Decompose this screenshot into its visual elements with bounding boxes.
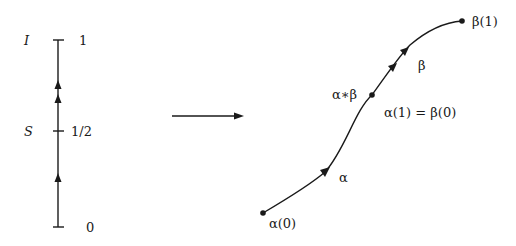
junction-label: α(1) = β(0) xyxy=(384,105,456,120)
arrow-up-icon xyxy=(55,94,62,103)
composite-path: α(0) β(1) α β α∗β α(1) = β(0) xyxy=(260,14,498,231)
arrow-up-icon xyxy=(55,80,62,89)
end-label: β(1) xyxy=(472,14,498,29)
end-point xyxy=(459,18,465,24)
start-point xyxy=(260,210,266,216)
beta-label: β xyxy=(418,58,426,73)
alpha-label: α xyxy=(339,170,348,185)
arrow-up-icon xyxy=(55,173,62,182)
tick-label-top: 1 xyxy=(79,33,87,48)
midpoint-name: S xyxy=(24,124,33,139)
unit-interval: I S 1 1/2 0 xyxy=(23,33,94,235)
composite-label: α∗β xyxy=(332,87,357,102)
junction-point xyxy=(369,92,375,98)
tick-label-mid: 1/2 xyxy=(71,124,92,139)
tick-label-bottom: 0 xyxy=(86,220,94,235)
start-label: α(0) xyxy=(269,216,296,231)
right-arrow-icon xyxy=(172,113,244,120)
interval-name: I xyxy=(23,33,30,48)
path-composition-diagram: I S 1 1/2 0 α(0) β(1) α β α∗β α(1) = β(0… xyxy=(0,0,516,246)
